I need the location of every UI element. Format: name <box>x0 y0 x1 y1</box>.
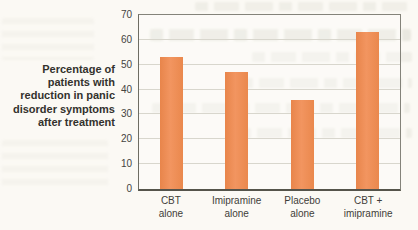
y-tick-label: 10 <box>92 157 132 171</box>
y-tick-label: 70 <box>92 8 132 22</box>
figure-panel: Percentage of patients with reduction in… <box>0 0 418 230</box>
y-tick-label: 30 <box>92 107 132 121</box>
x-category-label: CBT + imipramine <box>335 194 401 220</box>
bar-cbt-imipramine <box>356 32 379 189</box>
bar-imipramine-alone <box>225 72 248 189</box>
y-tick-label: 60 <box>92 33 132 47</box>
x-category-label: Placebo alone <box>270 194 336 220</box>
y-axis-ticks: 010203040506070 <box>92 15 132 189</box>
y-tick-label: 50 <box>92 58 132 72</box>
x-category-label: Imipramine alone <box>204 194 270 220</box>
x-category-label: CBT alone <box>138 194 204 220</box>
print-bleed-artifact <box>2 18 94 60</box>
y-tick-label: 0 <box>92 182 132 196</box>
x-axis-labels: CBT aloneImipramine alonePlacebo aloneCB… <box>138 194 401 220</box>
plot-area <box>138 14 401 191</box>
y-tick-label: 20 <box>92 132 132 146</box>
bar-placebo-alone <box>291 100 314 189</box>
y-tick-label: 40 <box>92 83 132 97</box>
bar-cbt-alone <box>160 57 183 189</box>
print-bleed-artifact <box>195 2 410 11</box>
